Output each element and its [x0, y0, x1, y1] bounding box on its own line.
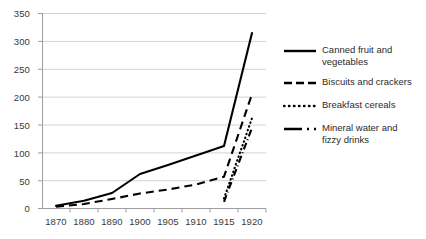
x-tick-marks: [70, 209, 266, 213]
y-tick-label-200: 200: [2, 92, 30, 103]
legend-entry-breakfast-cereals: Breakfast cereals: [283, 99, 426, 113]
y-tick-label-0: 0: [2, 203, 30, 214]
legend-entry-canned-fruit-and-vegetables: Canned fruit and vegetables: [283, 44, 426, 67]
y-tick-label-350: 350: [2, 8, 30, 19]
line-chart: 350 300 250 200 150 100 50 0 1870 1880 1…: [0, 0, 426, 239]
legend-entry-mineral-water-and-fizzy-drinks: Mineral water and fizzy drinks: [283, 122, 426, 145]
legend-entry-biscuits-and-crackers: Biscuits and crackers: [283, 76, 426, 90]
legend-label-mineral-water-and-fizzy-drinks: Mineral water and fizzy drinks: [322, 122, 398, 145]
y-tick-label-250: 250: [2, 64, 30, 75]
y-tick-label-300: 300: [2, 36, 30, 47]
x-tick-label-1920: 1920: [235, 216, 269, 227]
legend-label-canned-fruit-and-vegetables: Canned fruit and vegetables: [322, 44, 392, 67]
legend-swatch-dash-dot-line-icon: [283, 122, 317, 136]
legend-swatch-dotted-line-icon: [283, 99, 317, 113]
series-line-canned-fruit-and-vegetables: [56, 33, 252, 206]
legend-label-biscuits-and-crackers: Biscuits and crackers: [322, 76, 412, 88]
series-line-biscuits-and-crackers: [56, 94, 252, 207]
legend-swatch-dashed-line-icon: [283, 76, 317, 90]
legend-swatch-solid-line-icon: [283, 44, 317, 58]
y-tick-label-150: 150: [2, 120, 30, 131]
legend-label-breakfast-cereals: Breakfast cereals: [322, 99, 395, 111]
gridlines: [42, 14, 266, 181]
y-tick-label-100: 100: [2, 148, 30, 159]
chart-legend: Canned fruit and vegetables Biscuits and…: [283, 44, 426, 154]
y-tick-marks: [38, 14, 42, 209]
y-tick-label-50: 50: [2, 176, 30, 187]
